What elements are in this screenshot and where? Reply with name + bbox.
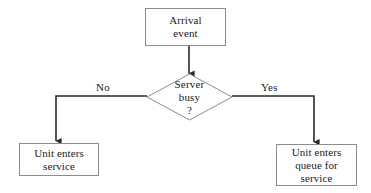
edge-label-yes: Yes xyxy=(261,81,278,93)
edge-label-no: No xyxy=(96,81,110,93)
node-unit-enters-service-line1: Unit enters xyxy=(34,147,84,160)
node-arrival-event[interactable]: Arrival event xyxy=(145,8,226,46)
node-arrival-event-line1: Arrival xyxy=(169,14,201,27)
node-arrival-event-line2: event xyxy=(173,27,197,40)
node-unit-enters-service-line2: service xyxy=(43,160,75,173)
node-decision-line3: ? xyxy=(147,104,232,117)
flowchart-diagram: Arrival event Server busy ? No Yes Unit … xyxy=(0,0,371,193)
edge-decision-no-to-service xyxy=(56,96,147,141)
edge-decision-yes-to-queue xyxy=(232,96,314,142)
node-unit-enters-queue-line3: service xyxy=(301,172,333,185)
node-unit-enters-queue-line2: queue for xyxy=(295,159,338,172)
node-unit-enters-queue[interactable]: Unit enters queue for service xyxy=(276,144,357,186)
node-unit-enters-queue-line1: Unit enters xyxy=(292,146,342,159)
node-decision-label[interactable]: Server busy ? xyxy=(147,78,232,117)
node-decision-line1: Server xyxy=(147,78,232,91)
node-unit-enters-service[interactable]: Unit enters service xyxy=(19,143,99,176)
node-decision-line2: busy xyxy=(147,91,232,104)
